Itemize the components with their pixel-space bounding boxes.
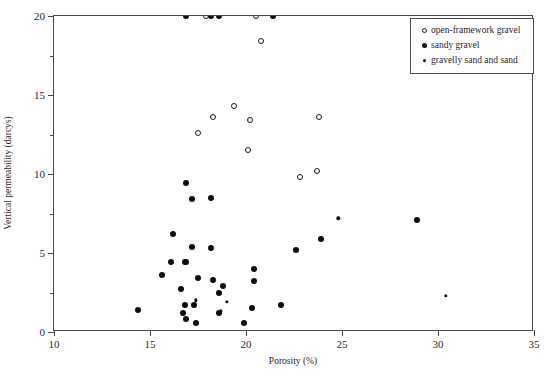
data-point (251, 266, 257, 272)
data-point (178, 286, 184, 292)
data-point (195, 275, 201, 281)
y-tick-label: 10 (34, 169, 45, 180)
data-point (182, 302, 188, 308)
x-tick (534, 330, 535, 336)
data-point (253, 16, 259, 19)
small-dot-icon (417, 59, 431, 62)
data-point (336, 217, 339, 220)
data-point (180, 310, 186, 316)
filled-circle-icon (417, 43, 431, 48)
chart-legend: open-framework gravelsandy gravelgravell… (410, 18, 534, 74)
legend-label: sandy gravel (431, 41, 479, 51)
data-point (208, 195, 214, 201)
data-point (210, 277, 216, 283)
data-point (220, 283, 226, 289)
legend-item: sandy gravel (417, 38, 527, 53)
data-point (194, 299, 197, 302)
legend-item: open-framework gravel (417, 23, 527, 38)
y-tick-label: 15 (34, 90, 45, 101)
y-tick-label: 20 (34, 11, 45, 22)
x-tick (342, 330, 343, 336)
x-tick (150, 330, 151, 336)
data-point (231, 103, 237, 109)
legend-marker-glyph (422, 43, 427, 48)
data-point (314, 168, 320, 174)
data-point (189, 244, 195, 250)
data-point (245, 147, 251, 153)
x-tick (246, 330, 247, 336)
data-point (278, 302, 284, 308)
data-point (316, 114, 322, 120)
data-point (241, 320, 247, 326)
x-tick-label: 20 (241, 339, 252, 350)
legend-label: open-framework gravel (431, 26, 520, 36)
x-tick (54, 330, 55, 336)
data-point (168, 259, 174, 265)
legend-item: gravelly sand and sand (417, 53, 527, 68)
data-point (297, 174, 303, 180)
y-tick-label: 0 (40, 327, 46, 338)
data-point (251, 278, 257, 284)
open-circle-icon (417, 28, 431, 33)
data-point (208, 245, 214, 251)
data-point (216, 290, 222, 296)
data-point (193, 320, 199, 326)
data-point (208, 16, 214, 19)
data-point (191, 302, 197, 308)
data-point (210, 114, 216, 120)
x-tick-label: 25 (337, 339, 348, 350)
legend-marker-glyph (422, 28, 427, 33)
data-point (183, 180, 189, 186)
x-tick-label: 15 (145, 339, 156, 350)
data-point (135, 307, 141, 313)
data-point (189, 196, 195, 202)
data-point (183, 316, 189, 322)
x-tick (438, 330, 439, 336)
data-point (159, 272, 165, 278)
x-axis-title: Porosity (%) (269, 356, 317, 366)
y-axis-title: Vertical permeability (darcys) (3, 116, 13, 229)
x-tick-label: 30 (433, 339, 444, 350)
scatter-plot-figure: Vertical permeability (darcys) Porosity … (0, 0, 551, 381)
x-tick-label: 10 (49, 339, 60, 350)
data-point (249, 305, 255, 311)
data-point (216, 16, 222, 19)
data-point (444, 294, 447, 297)
legend-marker-glyph (423, 59, 426, 62)
x-tick-label: 35 (529, 339, 540, 350)
data-point (219, 310, 222, 313)
data-point (247, 117, 253, 123)
data-point (170, 231, 176, 237)
data-point (183, 259, 189, 265)
data-point (414, 217, 420, 223)
data-point (225, 300, 228, 303)
data-point (195, 130, 201, 136)
y-tick-label: 5 (40, 248, 46, 259)
data-point (270, 16, 276, 19)
data-point (293, 247, 299, 253)
legend-label: gravelly sand and sand (431, 56, 518, 66)
data-point (183, 16, 189, 19)
data-point (258, 38, 264, 44)
data-point (318, 236, 324, 242)
